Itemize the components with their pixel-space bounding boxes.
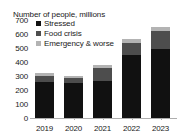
- y-axis-tick-label: 200: [2, 86, 28, 95]
- x-axis-tick-label: 2022: [118, 124, 146, 133]
- x-axis-tickmark: [74, 118, 75, 120]
- y-axis-tick-label: 500: [2, 44, 28, 53]
- bar-segment: [122, 55, 141, 118]
- bar-2021: [93, 20, 112, 118]
- bar-segment: [93, 81, 112, 118]
- bar-2020: [64, 20, 83, 118]
- y-axis-tick-label: 400: [2, 58, 28, 67]
- bar-segment: [151, 49, 170, 118]
- y-axis-tick-label: 300: [2, 72, 28, 81]
- x-axis: 20192020202120222023: [30, 121, 177, 135]
- bar-segment: [35, 82, 54, 118]
- x-axis-tickmark: [103, 118, 104, 120]
- y-axis-tick-label: 700: [2, 16, 28, 25]
- bar-segment: [122, 43, 141, 55]
- bar-2023: [151, 20, 170, 118]
- bar-segment: [93, 68, 112, 81]
- x-axis-tickmark: [161, 118, 162, 120]
- y-axis-tick-label: 0: [2, 114, 28, 123]
- y-axis-tick-label: 600: [2, 30, 28, 39]
- x-axis-tick-label: 2020: [60, 124, 88, 133]
- y-axis: 0100200300400500600700: [0, 20, 28, 118]
- x-axis-tick-label: 2021: [89, 124, 117, 133]
- bar-segment: [64, 83, 83, 118]
- plot-area: [30, 20, 175, 118]
- bar-chart: Number of people, millions Stressed Food…: [0, 0, 178, 138]
- x-axis-tickmark: [132, 118, 133, 120]
- bar-2022: [122, 20, 141, 118]
- bar-segment: [151, 31, 170, 49]
- x-axis-tick-label: 2023: [147, 124, 175, 133]
- x-axis-tickmark: [45, 118, 46, 120]
- x-axis-tick-label: 2019: [31, 124, 59, 133]
- x-axis-line: [30, 118, 177, 119]
- bar-2019: [35, 20, 54, 118]
- y-axis-tick-label: 100: [2, 100, 28, 109]
